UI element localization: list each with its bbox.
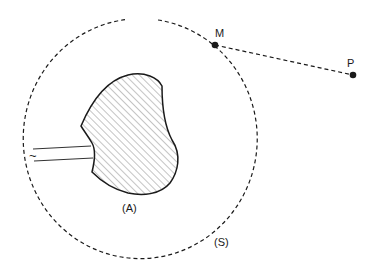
point-p-label: P — [347, 57, 354, 69]
point-m-label: M — [215, 27, 224, 39]
segment-mp — [215, 45, 353, 75]
point-p-dot — [350, 72, 357, 79]
diagram-canvas: ~ M P (A) (S) — [0, 0, 377, 273]
body-a-label: (A) — [122, 202, 137, 214]
feed-wire-upper — [33, 146, 91, 149]
feed-wire-lower — [34, 158, 93, 161]
body-a-region — [81, 74, 178, 195]
point-m-dot — [212, 42, 219, 49]
ac-source-symbol: ~ — [29, 148, 37, 163]
surface-s-label: (S) — [214, 236, 229, 248]
